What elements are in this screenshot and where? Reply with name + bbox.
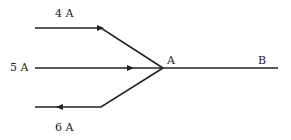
top-wire <box>35 28 163 68</box>
junction-label: A <box>166 54 176 67</box>
bottom-wire <box>35 68 163 107</box>
bottom-arrow-icon <box>56 104 63 110</box>
end-point-label: B <box>258 54 266 67</box>
bottom-current-label: 6 A <box>55 121 74 134</box>
circuit-diagram: 4 A 5 A 6 A A B <box>0 0 291 140</box>
top-current-label: 4 A <box>55 7 74 20</box>
middle-arrow-icon <box>127 65 134 71</box>
middle-current-label: 5 A <box>10 61 29 74</box>
